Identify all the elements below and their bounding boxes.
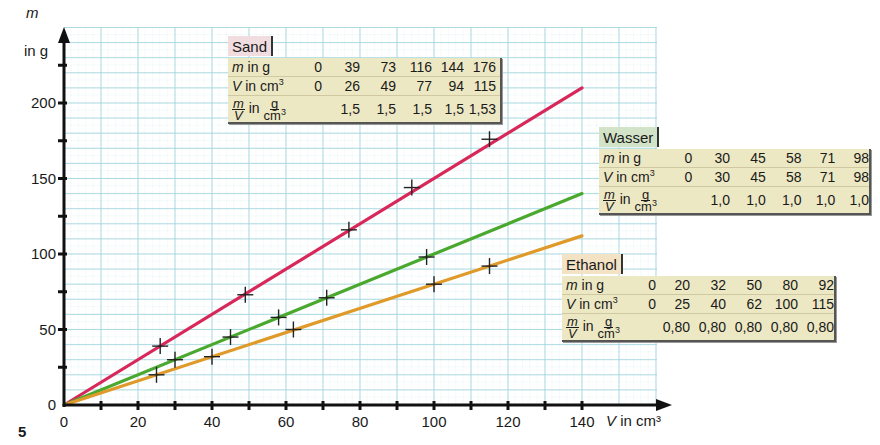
x-tick-label: 80	[352, 413, 369, 430]
x-axis-arrow-icon	[656, 399, 672, 411]
x-tick-label: 20	[130, 413, 147, 430]
x-tick-label: 0	[60, 413, 68, 430]
wasser-table: Wasser m in g 0 30 45 58 71 98 V in cm3 …	[599, 127, 871, 215]
x-tick-label: 60	[278, 413, 295, 430]
y-tick-label: 100	[31, 245, 56, 262]
x-tick-label: 140	[569, 413, 594, 430]
density-row: mV in gcm3 0,80 0,80 0,80 0,80 0,80	[562, 313, 834, 340]
y-tick-label: 0	[48, 396, 56, 413]
ethanol-table-title: Ethanol	[562, 254, 623, 274]
y-tick-label: 150	[31, 170, 56, 187]
density-row: mV in gcm3 1,0 1,0 1,0 1,0 1,0	[599, 186, 869, 213]
x-axis-label: V in cm³	[606, 412, 661, 429]
sand-table: Sand m in g 0 39 73 116 144 176 V in cm3…	[228, 36, 502, 124]
y-tick-label: 50	[39, 321, 56, 338]
volume-row: V in cm3 0 25 40 62 100 115	[562, 294, 834, 313]
ethanol-table: Ethanol m in g 0 20 32 50 80 92 V in cm3…	[562, 254, 836, 342]
x-tick-label: 120	[495, 413, 520, 430]
x-tick-label: 40	[204, 413, 221, 430]
mass-row: m in g 0 20 32 50 80 92	[562, 276, 834, 294]
density-row: mV in gcm3 1,5 1,5 1,5 1,5 1,53	[228, 95, 500, 122]
sand-table-title: Sand	[228, 36, 273, 56]
mass-row: m in g 0 39 73 116 144 176	[228, 58, 500, 76]
y-tick-label: 200	[31, 94, 56, 111]
y-axis-label-var: m	[26, 4, 39, 21]
x-tick-label: 100	[421, 413, 446, 430]
y-axis-label-unit: in g	[24, 42, 48, 59]
wasser-table-title: Wasser	[599, 127, 659, 147]
volume-row: V in cm3 0 30 45 58 71 98	[599, 167, 869, 186]
volume-row: V in cm3 0 26 49 77 94 115	[228, 76, 500, 95]
figure-number: 5	[18, 423, 26, 440]
mass-row: m in g 0 30 45 58 71 98	[599, 149, 869, 167]
